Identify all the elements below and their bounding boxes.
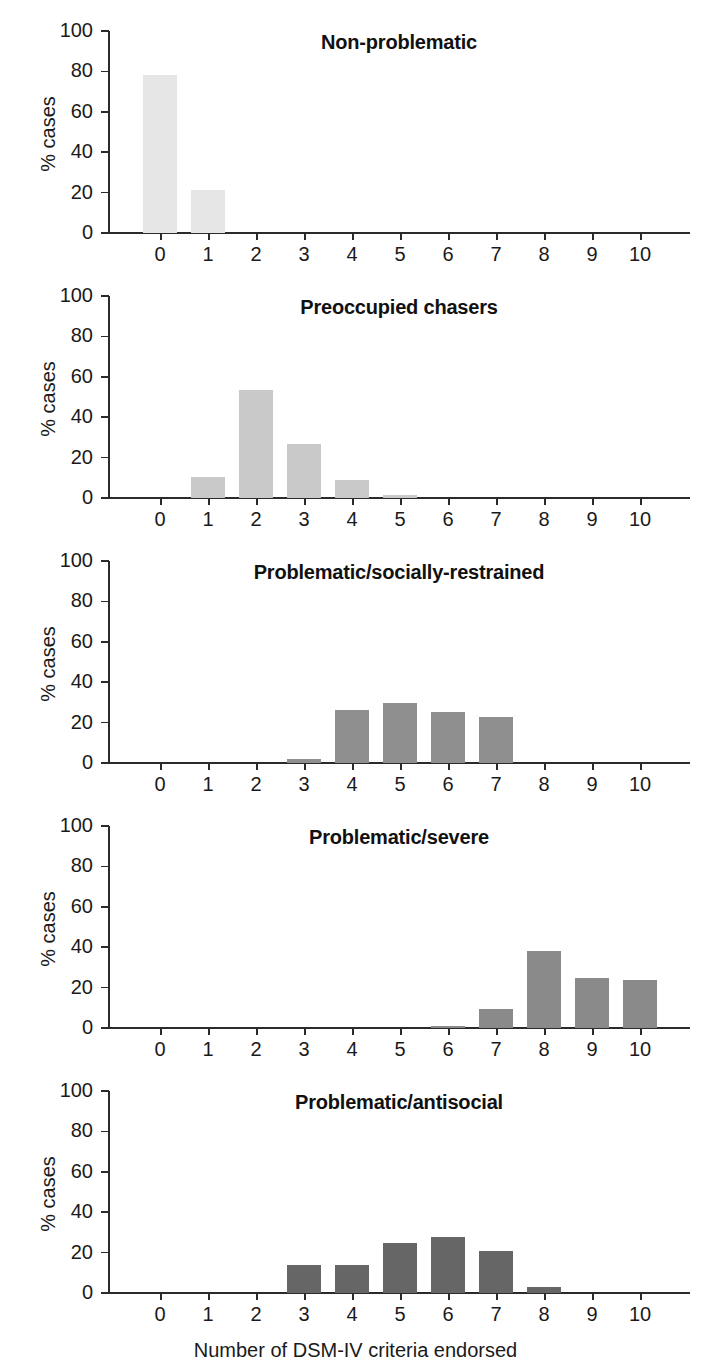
panel-title: Problematic/socially-restrained: [108, 560, 690, 584]
bar: [191, 477, 225, 498]
panel-title: Problematic/severe: [108, 825, 690, 849]
bar-series: [108, 561, 690, 763]
x-axis-tick: [304, 498, 306, 505]
figure-multi-panel-bar-chart: 020406080100% cases012345678910Non-probl…: [0, 0, 711, 1372]
bar: [287, 1265, 321, 1293]
panel-2: 020406080100% cases012345678910Preoccupi…: [0, 265, 711, 530]
x-axis-tick-label: 8: [524, 1303, 564, 1325]
y-axis-title-holder: % cases: [18, 31, 58, 233]
x-axis-tick-label: 3: [284, 243, 324, 265]
x-axis-tick: [208, 498, 210, 505]
x-axis-tick: [208, 1293, 210, 1300]
x-axis-tick: [640, 233, 642, 240]
panel-3: 020406080100% cases012345678910Problemat…: [0, 530, 711, 795]
x-axis-tick-label: 4: [332, 1038, 372, 1060]
x-axis-tick-label: 7: [476, 508, 516, 530]
x-axis-tick-label: 1: [188, 1038, 228, 1060]
x-axis-tick-label: 10: [620, 1303, 660, 1325]
bar: [479, 1009, 513, 1028]
x-axis-tick: [304, 1293, 306, 1300]
bar: [431, 1237, 465, 1293]
bar: [575, 978, 609, 1029]
x-axis-tick: [496, 763, 498, 770]
x-axis-tick-label: 6: [428, 1038, 468, 1060]
bar: [191, 190, 225, 233]
x-axis-tick: [160, 763, 162, 770]
x-axis-tick-label: 0: [140, 1038, 180, 1060]
x-axis-tick-label: 2: [236, 1303, 276, 1325]
x-axis-tick-label: 8: [524, 773, 564, 795]
bar: [383, 495, 417, 498]
x-axis-tick: [352, 498, 354, 505]
x-axis-tick: [448, 1028, 450, 1035]
x-axis-tick-label: 4: [332, 773, 372, 795]
x-axis-tick: [544, 498, 546, 505]
x-axis-title: Number of DSM-IV criteria endorsed: [0, 1338, 711, 1362]
x-axis-tick-label: 4: [332, 1303, 372, 1325]
x-axis-tick: [256, 1028, 258, 1035]
bar: [479, 717, 513, 763]
x-axis-tick: [208, 1028, 210, 1035]
x-axis-tick: [544, 1293, 546, 1300]
x-axis-tick-label: 2: [236, 243, 276, 265]
x-axis-tick: [640, 1028, 642, 1035]
bar: [335, 1265, 369, 1293]
x-axis-tick-label: 0: [140, 243, 180, 265]
x-axis-tick-label: 8: [524, 508, 564, 530]
x-axis-tick: [544, 763, 546, 770]
x-axis-tick-label: 8: [524, 243, 564, 265]
x-axis-tick: [304, 233, 306, 240]
x-axis-tick: [400, 1028, 402, 1035]
x-axis-tick-label: 7: [476, 243, 516, 265]
x-axis-tick-label: 0: [140, 1303, 180, 1325]
x-axis-tick-label: 2: [236, 508, 276, 530]
y-axis-title-holder: % cases: [18, 826, 58, 1028]
bar: [335, 710, 369, 763]
x-axis-tick-label: 1: [188, 773, 228, 795]
x-axis-tick-label: 9: [572, 773, 612, 795]
panel-5: 020406080100% cases012345678910Problemat…: [0, 1060, 711, 1325]
bar: [479, 1251, 513, 1293]
x-axis-tick-label: 7: [476, 1303, 516, 1325]
x-axis-tick: [496, 1293, 498, 1300]
y-axis-title: % cases: [37, 1104, 59, 1284]
x-axis-tick-label: 5: [380, 1038, 420, 1060]
x-axis-tick-label: 0: [140, 773, 180, 795]
x-axis-tick: [352, 233, 354, 240]
x-axis-tick: [256, 233, 258, 240]
x-axis-tick: [496, 498, 498, 505]
x-axis-tick-label: 3: [284, 773, 324, 795]
x-axis-tick-label: 3: [284, 1303, 324, 1325]
x-axis-tick: [352, 1028, 354, 1035]
x-axis-tick-label: 4: [332, 243, 372, 265]
x-axis-tick: [592, 763, 594, 770]
x-axis-tick: [160, 233, 162, 240]
x-axis-tick-label: 5: [380, 243, 420, 265]
bar: [143, 75, 177, 233]
y-axis-title: % cases: [37, 574, 59, 754]
bar: [527, 951, 561, 1028]
x-axis-tick-label: 2: [236, 773, 276, 795]
x-axis-tick: [592, 498, 594, 505]
x-axis-tick: [448, 233, 450, 240]
panel-4: 020406080100% cases012345678910Problemat…: [0, 795, 711, 1060]
x-axis-tick: [400, 763, 402, 770]
bar-series: [108, 1091, 690, 1293]
x-axis-tick: [448, 763, 450, 770]
x-axis-tick-label: 10: [620, 508, 660, 530]
bar: [287, 759, 321, 763]
x-axis-tick-label: 10: [620, 1038, 660, 1060]
y-axis-title-holder: % cases: [18, 561, 58, 763]
x-axis-tick: [496, 1028, 498, 1035]
x-axis-tick-label: 5: [380, 1303, 420, 1325]
bar: [431, 1026, 465, 1028]
bar: [239, 390, 273, 498]
x-axis-tick: [640, 763, 642, 770]
x-axis-tick: [640, 498, 642, 505]
x-axis-tick-label: 6: [428, 508, 468, 530]
bar: [383, 1243, 417, 1294]
x-axis-tick: [592, 1028, 594, 1035]
x-axis-tick-label: 9: [572, 243, 612, 265]
y-axis-title: % cases: [37, 309, 59, 489]
x-axis-tick: [256, 498, 258, 505]
